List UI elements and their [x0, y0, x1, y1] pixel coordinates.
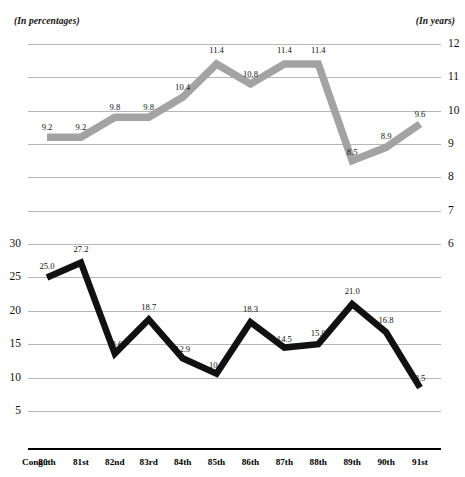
gridline — [28, 244, 441, 245]
series-line-years-of-service — [0, 0, 465, 477]
right-axis-caption: (In years) — [416, 16, 455, 26]
data-point-label: 13.6 — [107, 340, 122, 349]
gridline — [28, 77, 441, 78]
data-point-label: 16.8 — [379, 316, 394, 325]
gridline — [28, 177, 441, 178]
y-axis-tick-label: 10 — [448, 105, 460, 117]
category-label: 80th — [38, 457, 55, 467]
category-label: 81st — [73, 457, 89, 467]
category-label: 88th — [310, 457, 327, 467]
y-axis-tick-label: 30 — [0, 238, 21, 250]
data-point-label: 8.5 — [415, 374, 426, 383]
data-point-label: 11.4 — [277, 46, 292, 55]
plot-area: 1211109876302520151059.29.29.89.810.411.… — [0, 0, 465, 477]
gridline — [28, 211, 441, 212]
category-label: 83rd — [140, 457, 158, 467]
category-label: 86th — [242, 457, 259, 467]
gridline — [28, 44, 441, 45]
gridline — [28, 311, 441, 312]
category-label: 89th — [343, 457, 360, 467]
y-axis-tick-label: 12 — [448, 38, 460, 50]
data-point-label: 11.4 — [311, 46, 326, 55]
data-point-label: 8.5 — [347, 148, 358, 157]
data-point-label: 9.8 — [143, 103, 154, 112]
data-point-label: 21.0 — [345, 287, 360, 296]
left-axis-caption: (In percentages) — [14, 16, 80, 26]
gridline — [28, 111, 441, 112]
data-point-label: 9.2 — [76, 123, 87, 132]
gridline — [28, 344, 441, 345]
data-point-label: 10.8 — [243, 70, 258, 79]
y-axis-tick-label: 15 — [0, 338, 21, 350]
polyline — [47, 64, 420, 161]
gridline — [28, 277, 441, 278]
data-point-label: 11.4 — [209, 46, 224, 55]
gridline — [28, 411, 441, 412]
data-point-label: 25.0 — [39, 262, 54, 271]
y-axis-tick-label: 8 — [448, 171, 454, 183]
y-axis-tick-label: 7 — [448, 205, 454, 217]
category-label: 91st — [412, 457, 428, 467]
data-point-label: 18.3 — [243, 305, 258, 314]
category-axis: Cong.: 80th81st82nd83rd84th85th86th87th8… — [0, 457, 465, 473]
y-axis-tick-label: 10 — [0, 372, 21, 384]
data-point-label: 9.2 — [42, 123, 53, 132]
x-axis-rule — [28, 448, 441, 450]
y-axis-tick-label: 9 — [448, 138, 454, 150]
data-point-label: 8.9 — [381, 132, 392, 141]
data-point-label: 10.6 — [209, 361, 224, 370]
data-point-label: 12.9 — [175, 345, 190, 354]
data-point-label: 27.2 — [73, 245, 88, 254]
polyline — [47, 263, 420, 388]
data-point-label: 18.7 — [141, 303, 156, 312]
data-point-label: 9.8 — [109, 103, 120, 112]
y-axis-tick-label: 5 — [0, 405, 21, 417]
data-point-label: 14.5 — [277, 335, 292, 344]
y-axis-tick-label: 25 — [0, 271, 21, 283]
y-axis-tick-label: 11 — [448, 71, 459, 83]
gridline — [28, 144, 441, 145]
category-label: 84th — [174, 457, 191, 467]
chart-page: (In percentages) (In years) 121110987630… — [0, 0, 465, 477]
data-point-label: 10.4 — [175, 83, 190, 92]
gridline — [28, 378, 441, 379]
category-label: 90th — [377, 457, 394, 467]
data-point-label: 9.6 — [415, 110, 426, 119]
data-point-label: 15.0 — [311, 329, 326, 338]
y-axis-tick-label: 20 — [0, 305, 21, 317]
category-label: 87th — [276, 457, 293, 467]
category-label: 85th — [208, 457, 225, 467]
y-axis-tick-label: 6 — [448, 238, 454, 250]
category-label: 82nd — [105, 457, 124, 467]
gridline — [28, 244, 441, 245]
series-line-percentage-turnover — [0, 0, 465, 477]
